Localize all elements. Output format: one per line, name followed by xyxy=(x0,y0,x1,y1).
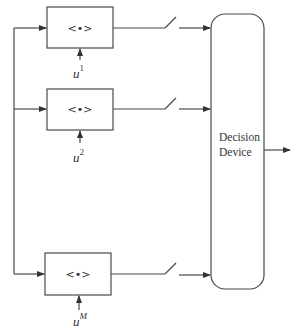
branch-1: <•> u1 xyxy=(47,7,210,81)
switch-icon xyxy=(165,263,176,274)
operator-label: <•> xyxy=(68,22,93,35)
decision-device-label-line2: Device xyxy=(219,146,252,158)
input-label: uM xyxy=(73,311,88,329)
diagram-canvas: <•> u1 <•> u2 <•> uM Decision D xyxy=(0,0,297,336)
decision-device-label-line1: Decision xyxy=(219,131,260,143)
branch-m: <•> uM xyxy=(45,253,210,329)
input-label: u1 xyxy=(73,63,84,81)
input-bus xyxy=(14,28,46,274)
switch-icon xyxy=(165,98,176,109)
branch-2: <•> u2 xyxy=(47,89,210,165)
operator-label: <•> xyxy=(66,268,91,281)
input-label: u2 xyxy=(73,147,84,165)
decision-device: Decision Device xyxy=(211,14,290,289)
switch-icon xyxy=(165,17,176,28)
operator-label: <•> xyxy=(68,103,93,116)
